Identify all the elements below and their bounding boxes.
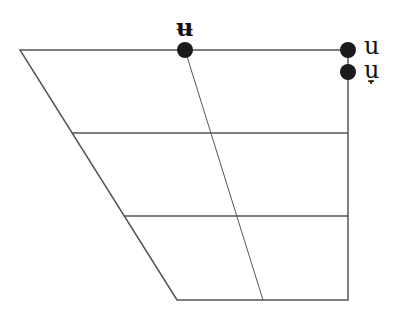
vowel-label-back-lowered: u̞ (364, 58, 379, 82)
vowel-trapezoid (20, 50, 348, 300)
vowel-label-back-close: u (364, 34, 379, 58)
vowel-label-central: ʉ (176, 16, 193, 40)
vowel-dot-back-lowered (340, 64, 356, 80)
vowel-dot-back-close (340, 42, 356, 58)
vowel-dot-central-close (177, 42, 193, 58)
central-line (185, 50, 263, 300)
vowel-chart (0, 0, 399, 315)
